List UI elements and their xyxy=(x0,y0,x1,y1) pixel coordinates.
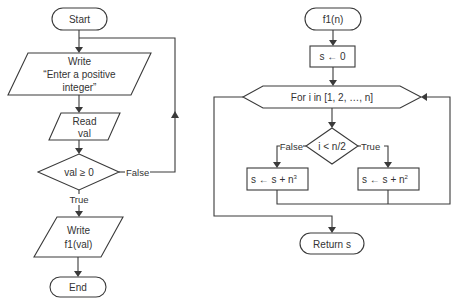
false-action-label: s ← s + n3 xyxy=(251,174,298,185)
for-loop-preparation: For i in [1, 2, …, n] xyxy=(243,86,421,108)
start-terminal: Start xyxy=(52,8,107,30)
function-start-terminal: f1(n) xyxy=(305,8,361,30)
write-result-line1: Write xyxy=(67,225,91,236)
arrow-down-icon xyxy=(75,148,83,154)
arrow-down-icon xyxy=(329,80,337,86)
write-result-line2: f1(val) xyxy=(65,239,93,250)
false-action-process: s ← s + n3 xyxy=(247,168,308,190)
decision-val-nonnegative: val ≥ 0 xyxy=(38,154,119,190)
start-label: Start xyxy=(69,14,90,25)
end-label: End xyxy=(69,282,87,293)
decision-label: val ≥ 0 xyxy=(64,167,94,178)
loop-exit-connector xyxy=(214,97,332,228)
main-flowchart: Start Write “Enter a positive integer” R… xyxy=(8,8,179,297)
read-input-io: Read val xyxy=(49,113,120,140)
arrow-down-icon xyxy=(75,211,83,217)
init-process: s ← 0 xyxy=(310,46,355,67)
function-start-label: f1(n) xyxy=(323,14,344,25)
inner-false-label: False xyxy=(280,141,303,152)
write-prompt-io: Write “Enter a positive integer” xyxy=(8,53,151,95)
arrow-down-icon xyxy=(329,40,337,46)
return-terminal: Return s xyxy=(300,233,364,254)
inner-decision-label: i < n/2 xyxy=(318,141,346,152)
true-action-label: s ← s + n2 xyxy=(362,174,409,185)
arrow-down-icon xyxy=(273,162,281,168)
arrow-down-icon xyxy=(74,271,82,277)
arrow-down-icon xyxy=(75,47,83,53)
loop-label: For i in [1, 2, …, n] xyxy=(291,92,373,103)
function-flowchart: f1(n) s ← 0 For i in [1, 2, …, n] i < n/… xyxy=(214,8,450,254)
arrow-down-icon xyxy=(328,227,336,233)
write-prompt-line3: integer” xyxy=(63,82,97,93)
write-result-io: Write f1(val) xyxy=(34,217,123,257)
read-line2: val xyxy=(78,128,91,139)
write-prompt-line1: Write xyxy=(68,56,92,67)
end-terminal: End xyxy=(50,277,106,297)
decision-i-less-half-n: i < n/2 xyxy=(306,128,358,164)
true-label: True xyxy=(69,194,88,205)
write-prompt-line2: “Enter a positive xyxy=(43,69,116,80)
arrow-up-icon xyxy=(171,111,179,118)
read-line1: Read xyxy=(73,116,97,127)
arrow-left-icon xyxy=(421,93,427,101)
arrow-down-icon xyxy=(384,162,392,168)
arrow-down-icon xyxy=(328,122,336,128)
flowchart-canvas: Start Write “Enter a positive integer” R… xyxy=(0,0,452,304)
init-label: s ← 0 xyxy=(319,51,346,62)
false-label: False xyxy=(126,167,149,178)
arrow-down-icon xyxy=(75,107,83,113)
return-label: Return s xyxy=(313,239,351,250)
true-action-process: s ← s + n2 xyxy=(358,168,419,190)
true-branch-connector xyxy=(384,146,388,163)
inner-true-label: True xyxy=(361,141,380,152)
